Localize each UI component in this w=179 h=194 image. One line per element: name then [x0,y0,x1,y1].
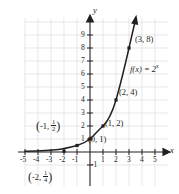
x-tick-label-2: 2 [114,156,118,164]
point-two-marker [114,98,117,101]
point-label-1-2: (1, 2) [105,119,123,128]
y-tick-label-2: 2 [81,122,85,130]
point-label-3-8: (3, 8) [135,35,153,44]
x-tick-label-1: 1 [101,156,105,164]
point-label-neg2-quarter-x: -2 [32,173,39,182]
y-tick-label-7: 7 [81,57,85,65]
y-axis-arrow [87,15,94,22]
function-label: f(x) = 2x [130,63,159,73]
y-axis-label: y [93,6,97,15]
point-label-neg1-half-x: -1 [40,122,47,131]
point-label-neg1-half: (-1, 12) [36,119,60,133]
point-label-0-1: (0, 1) [88,135,106,144]
y-tick-label-neg1: -1 [91,161,97,169]
x-axis-arrow [163,149,170,156]
x-tick-label-5: 5 [153,156,157,164]
y-tick-label-6: 6 [81,70,85,78]
x-tick-label-3: 3 [127,156,131,164]
x-tick-label-neg5: -5 [20,156,26,164]
x-tick-label-neg1: -1 [72,156,78,164]
point-label-neg2-quarter: (-2, 14) [28,170,52,184]
y-tick-label-3: 3 [81,109,85,117]
paren-close: ) [56,120,60,132]
x-tick-label-neg4: -4 [33,156,39,164]
function-label-text: f(x) = 2 [130,64,156,74]
curve-arrow [131,15,138,25]
y-tick-label-4: 4 [81,96,85,104]
y-tick-label-1: 1 [81,135,85,143]
point-label-2-4: (2, 4) [119,88,137,97]
function-exponent: x [156,63,159,69]
point-neg1-marker [75,144,78,147]
y-tick-label-5: 5 [81,83,85,91]
y-tick-label-9: 9 [81,31,85,39]
fraction-one-quarter: 14 [43,170,48,184]
x-tick-label-neg3: -3 [46,156,52,164]
x-tick-label-neg2: -2 [59,156,65,164]
fraction-one-half: 12 [51,119,56,133]
point-neg2-marker [62,150,65,153]
paren-close: ) [48,171,52,183]
point-three-marker [127,46,130,49]
exponential-function-graph: y x 9 8 7 6 5 4 3 2 1 -1 -5 -4 -3 -2 -1 … [0,0,179,194]
graph-canvas [0,0,179,194]
x-tick-label-4: 4 [140,156,144,164]
x-axis-label: x [170,146,174,155]
y-tick-label-8: 8 [81,44,85,52]
